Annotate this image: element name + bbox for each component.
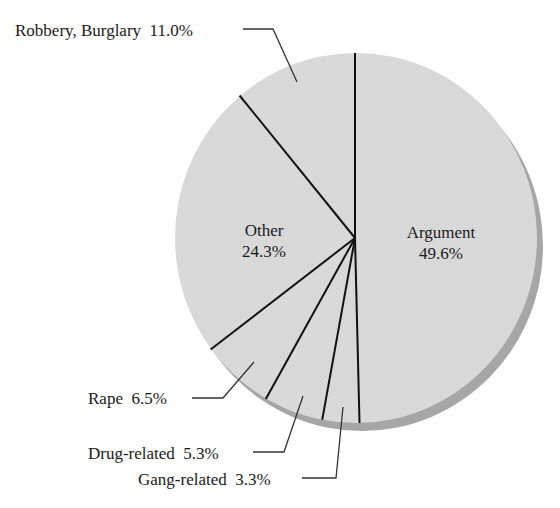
- slice-label-drug: Drug-related 5.3%: [88, 444, 219, 463]
- slice-label-rape: Rape 6.5%: [88, 389, 167, 408]
- slice-label-argument-pct: 49.6%: [419, 244, 463, 263]
- slice-label-gang: Gang-related 3.3%: [138, 470, 271, 489]
- slice-label-other-pct: 24.3%: [242, 242, 286, 261]
- slice-label-argument-name: Argument: [407, 223, 476, 242]
- pie-chart: Other 24.3% Argument 49.6% Robbery, Burg…: [0, 0, 560, 508]
- slice-label-other-name: Other: [245, 221, 284, 240]
- slice-label-robbery: Robbery, Burglary 11.0%: [15, 21, 193, 40]
